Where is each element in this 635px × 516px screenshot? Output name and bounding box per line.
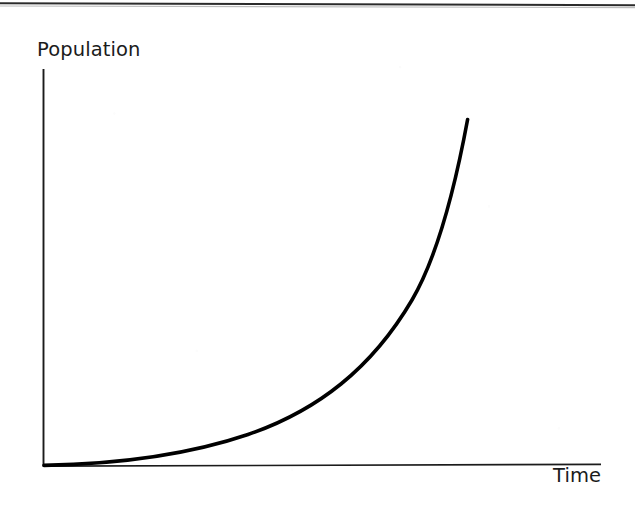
x-axis-title: Time: [553, 464, 601, 487]
x-axis-line: [43, 464, 601, 466]
figure-canvas: Population Time: [0, 0, 635, 516]
y-axis-title: Population: [37, 38, 140, 61]
page-top-rule: [0, 3, 635, 5]
exponential-growth-curve: [44, 120, 468, 466]
plot-area: [0, 0, 635, 516]
page-top-rule-shadow: [0, 6, 635, 8]
